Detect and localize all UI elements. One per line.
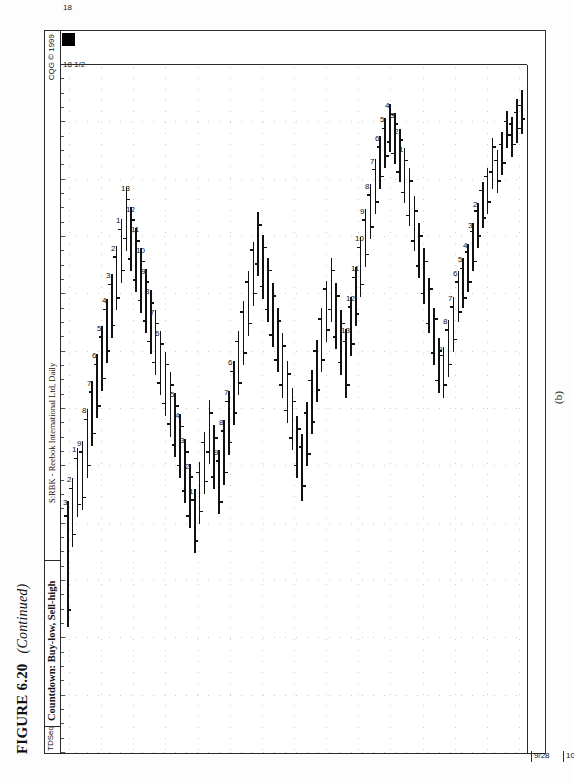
ohlc-bar [301, 434, 303, 501]
grid-dot [390, 320, 391, 321]
grid-dot [326, 639, 327, 640]
grid-dot [133, 199, 134, 200]
grid-dot [423, 397, 424, 398]
close-tick [478, 235, 481, 237]
grid-dot [294, 320, 295, 321]
close-tick [493, 146, 496, 148]
grid-dot [519, 529, 520, 530]
grid-dot [230, 551, 231, 552]
grid-dot [390, 452, 391, 453]
grid-dot [455, 100, 456, 101]
grid-dot [165, 507, 166, 508]
grid-dot [417, 465, 418, 466]
grid-dot [262, 705, 263, 706]
grid-dot [455, 573, 456, 574]
grid-dot [455, 738, 456, 739]
close-tick [444, 384, 447, 386]
grid-dot [198, 573, 199, 574]
grid-dot [175, 580, 176, 581]
grid-dot [384, 179, 385, 180]
grid-dot [142, 752, 143, 753]
open-tick [225, 401, 228, 403]
grid-dot [142, 121, 143, 122]
grid-dot [230, 144, 231, 145]
open-tick [367, 194, 370, 196]
grid-dot [230, 562, 231, 563]
ohlc-bar [287, 361, 289, 423]
grid-dot [307, 351, 308, 352]
price-tick [61, 394, 64, 395]
grid-dot [198, 177, 199, 178]
grid-dot [307, 637, 308, 638]
grid-dot [101, 232, 102, 233]
grid-dot [230, 683, 231, 684]
countdown-number: 7 [224, 388, 228, 397]
grid-dot [516, 293, 517, 294]
grid-dot [519, 562, 520, 563]
grid-dot [294, 738, 295, 739]
grid-dot [165, 221, 166, 222]
grid-dot [262, 562, 263, 563]
grid-dot [230, 408, 231, 409]
grid-dot [69, 452, 70, 453]
grid-dot [326, 397, 327, 398]
grid-dot [197, 637, 198, 638]
grid-dot [101, 485, 102, 486]
grid-dot [329, 465, 330, 466]
price-tick [61, 551, 64, 552]
grid-dot [455, 188, 456, 189]
grid-dot [69, 78, 70, 79]
grid-dot [358, 408, 359, 409]
open-tick [308, 380, 311, 382]
grid-dot [455, 408, 456, 409]
grid-dot [87, 752, 88, 753]
grid-dot [390, 353, 391, 354]
grid-dot [262, 78, 263, 79]
grid-dot [395, 465, 396, 466]
grid-dot [153, 408, 154, 409]
grid-dot [165, 298, 166, 299]
grid-dot [133, 650, 134, 651]
open-tick [401, 192, 404, 194]
grid-dot [362, 351, 363, 352]
close-tick [254, 293, 257, 295]
close-tick [410, 180, 413, 182]
grid-dot [519, 309, 520, 310]
grid-dot [358, 133, 359, 134]
grid-dot [101, 551, 102, 552]
countdown-number: 2 [111, 244, 115, 253]
grid-dot [455, 749, 456, 750]
grid-dot [395, 408, 396, 409]
grid-dot [423, 639, 424, 640]
grid-dot [198, 694, 199, 695]
grid-dot [519, 452, 520, 453]
grid-dot [101, 683, 102, 684]
grid-dot [307, 293, 308, 294]
grid-dot [69, 419, 70, 420]
grid-dot [450, 121, 451, 122]
grid-dot [263, 179, 264, 180]
plot-area[interactable]: 2345678912345678910111213678912345678910… [61, 65, 527, 753]
open-tick [318, 318, 321, 320]
grid-dot [455, 353, 456, 354]
grid-dot [241, 179, 242, 180]
grid-dot [519, 661, 520, 662]
grid-dot [133, 133, 134, 134]
grid-dot [519, 584, 520, 585]
close-tick [214, 437, 217, 439]
grid-dot [358, 727, 359, 728]
grid-dot [69, 573, 70, 574]
grid-dot [101, 430, 102, 431]
grid-dot [87, 695, 88, 696]
grid-dot [358, 144, 359, 145]
grid-dot [230, 523, 231, 524]
price-chart[interactable]: TDSeq Countdown: Buy-low, Sell-high S:RB… [44, 30, 546, 754]
grid-dot [230, 320, 231, 321]
grid-dot [373, 637, 374, 638]
open-tick [474, 210, 477, 212]
grid-dot [519, 441, 520, 442]
grid-dot [395, 293, 396, 294]
grid-dot [296, 179, 297, 180]
grid-dot [406, 293, 407, 294]
open-tick [245, 281, 248, 283]
